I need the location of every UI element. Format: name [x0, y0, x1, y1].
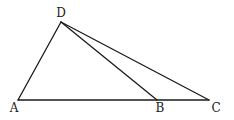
triangle-diagram: D A B C	[0, 0, 234, 120]
label-D: D	[56, 6, 66, 20]
label-A: A	[9, 101, 19, 115]
segment-DB	[61, 22, 157, 100]
label-B: B	[156, 101, 165, 115]
segment-DC	[61, 22, 209, 100]
segment-AD	[18, 22, 61, 100]
label-C: C	[211, 101, 220, 115]
